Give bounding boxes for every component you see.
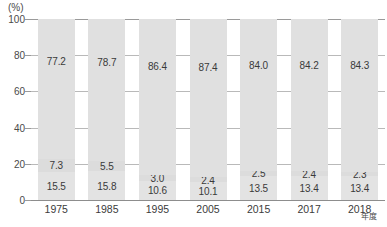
bar-segment-middle[interactable]: 3.0 xyxy=(139,175,176,180)
bars-layer: 15.57.377.215.85.578.710.63.086.410.12.4… xyxy=(31,19,385,200)
bar-column[interactable]: 10.12.487.4 xyxy=(190,19,227,200)
gridline-0 xyxy=(31,200,385,201)
x-tick-label-2018: 2018 xyxy=(334,203,385,215)
bar-segment-top[interactable]: 86.4 xyxy=(139,19,176,175)
bar-segment-middle[interactable]: 5.5 xyxy=(88,161,125,171)
x-axis-tick-labels: 1975198519952005201520172018 xyxy=(31,203,385,219)
bar-value-label: 15.8 xyxy=(88,180,125,191)
plot-area: 15.57.377.215.85.578.710.63.086.410.12.4… xyxy=(31,19,385,200)
bar-column[interactable]: 15.85.578.7 xyxy=(88,19,125,200)
bar-column[interactable]: 13.52.584.0 xyxy=(240,19,277,200)
stacked-bar-chart: (%) 020406080100 15.57.377.215.85.578.71… xyxy=(0,0,387,227)
bar-segment-top[interactable]: 84.2 xyxy=(291,19,328,171)
bar-segment-top[interactable]: 87.4 xyxy=(190,19,227,177)
bar-column[interactable]: 10.63.086.4 xyxy=(139,19,176,200)
cutoff-footnote-strip xyxy=(0,222,387,227)
bar-value-label: 84.2 xyxy=(291,59,328,70)
bar-value-label: 77.2 xyxy=(38,55,75,66)
bar-value-label: 78.7 xyxy=(88,56,125,67)
y-tick-label-80: 80 xyxy=(14,50,25,61)
x-tick-label-2017: 2017 xyxy=(284,203,335,215)
bar-value-label: 84.3 xyxy=(341,59,378,70)
x-tick-label-1975: 1975 xyxy=(31,203,82,215)
y-tick-label-60: 60 xyxy=(14,86,25,97)
bar-column[interactable]: 13.42.484.2 xyxy=(291,19,328,200)
x-axis-name-label: 年度 xyxy=(361,210,377,221)
bar-segment-bottom[interactable]: 15.5 xyxy=(38,172,75,200)
bar-segment-bottom[interactable]: 15.8 xyxy=(88,171,125,200)
bar-segment-top[interactable]: 77.2 xyxy=(38,19,75,159)
bar-value-label: 15.5 xyxy=(38,180,75,191)
bar-value-label: 87.4 xyxy=(190,61,227,72)
bar-segment-bottom[interactable]: 13.4 xyxy=(341,176,378,200)
bar-value-label: 86.4 xyxy=(139,60,176,71)
bar-value-label: 13.5 xyxy=(240,182,277,193)
bar-segment-top[interactable]: 78.7 xyxy=(88,19,125,161)
bar-segment-middle[interactable]: 2.4 xyxy=(190,177,227,181)
y-axis-tick-labels: 020406080100 xyxy=(0,19,25,200)
bar-segment-middle[interactable]: 2.4 xyxy=(291,171,328,175)
y-tick-mark-0 xyxy=(25,200,31,201)
bar-value-label: 7.3 xyxy=(38,160,75,171)
bar-value-label: 5.5 xyxy=(88,161,125,172)
bar-segment-middle[interactable]: 2.5 xyxy=(240,171,277,176)
x-tick-label-1995: 1995 xyxy=(132,203,183,215)
x-tick-label-2005: 2005 xyxy=(183,203,234,215)
bar-value-label: 10.1 xyxy=(190,185,227,196)
bar-segment-bottom[interactable]: 13.5 xyxy=(240,176,277,200)
y-tick-label-100: 100 xyxy=(8,14,25,25)
bar-segment-middle[interactable]: 7.3 xyxy=(38,159,75,172)
bar-column[interactable]: 13.42.384.3 xyxy=(341,19,378,200)
bar-value-label: 13.4 xyxy=(341,182,378,193)
bar-value-label: 10.6 xyxy=(139,185,176,196)
bar-value-label: 13.4 xyxy=(291,182,328,193)
bar-segment-top[interactable]: 84.0 xyxy=(240,19,277,171)
y-axis-unit-label: (%) xyxy=(8,2,24,13)
bar-segment-bottom[interactable]: 13.4 xyxy=(291,176,328,200)
bar-segment-middle[interactable]: 2.3 xyxy=(341,172,378,176)
bar-value-label: 84.0 xyxy=(240,59,277,70)
x-tick-label-1985: 1985 xyxy=(82,203,133,215)
bar-segment-bottom[interactable]: 10.6 xyxy=(139,181,176,200)
y-tick-label-20: 20 xyxy=(14,158,25,169)
bar-segment-top[interactable]: 84.3 xyxy=(341,19,378,172)
bar-column[interactable]: 15.57.377.2 xyxy=(38,19,75,200)
y-tick-label-40: 40 xyxy=(14,122,25,133)
x-tick-label-2015: 2015 xyxy=(233,203,284,215)
